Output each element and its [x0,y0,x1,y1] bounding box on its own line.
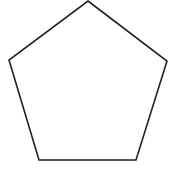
pentagon-shape [9,1,167,160]
pentagon-diagram [0,0,171,172]
